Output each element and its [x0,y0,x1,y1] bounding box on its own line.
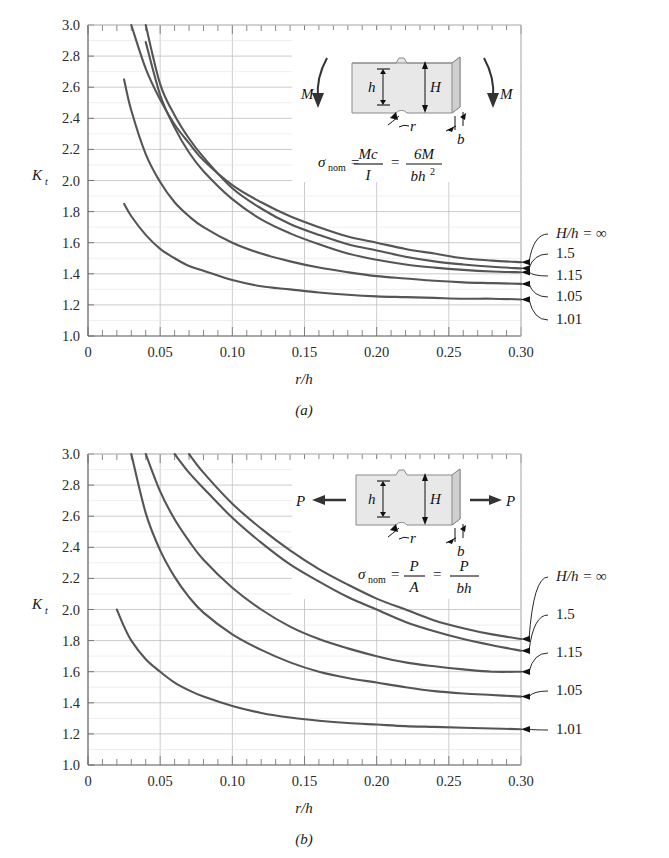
y-tick-label: 2.2 [62,141,80,157]
formula-den2-exp-a: 2 [430,166,435,177]
inset-dim-H-b: H [429,491,442,507]
y-tick-label: 3.0 [62,17,80,33]
chart-a-ytick-labels: 1.01.21.41.61.82.02.22.42.62.83.0 [62,17,81,344]
curve-1.01 [124,204,521,300]
y-tick-label: 2.6 [62,79,80,95]
y-tick-label: 1.8 [62,204,80,220]
formula-num1-a: Mc [357,146,377,162]
y-tick-label: 2.2 [62,570,80,586]
curve-label-1.15: 1.15 [556,644,582,660]
x-tick-label: 0.20 [364,344,389,360]
curve-label-leader [529,691,548,697]
curve-label-1.05: 1.05 [556,682,582,698]
panel-a: 1.01.21.41.61.82.02.22.42.62.83.0 00.050… [0,0,669,429]
x-tick-label: 0.10 [220,344,245,360]
chart-a-xtick-labels: 00.050.100.150.200.250.30 [84,344,533,360]
y-tick-label: 2.8 [62,48,80,64]
x-axis-title-b: r/h [295,800,313,816]
curve-label-group-a: H/h = ∞1.51.151.051.01 [521,225,607,327]
curve-label-leader [529,272,548,276]
y-tick-label: 1.6 [62,235,80,251]
curve-label-1.01: 1.01 [556,721,582,737]
x-tick-label: 0.30 [508,344,533,360]
y-tick-label: 2.8 [62,477,80,493]
panel-caption-b: (b) [295,831,313,848]
x-tick-label: 0.05 [147,773,172,789]
inset-dim-h-a: h [368,79,376,95]
y-tick-label: 1.0 [62,328,80,344]
x-tick-label: 0 [84,773,91,789]
curve-label-1.5: 1.5 [556,245,575,261]
curve-label-arrow [521,636,530,642]
inset-dim-H-a: H [429,79,442,95]
curve-label-group-b: H/h = ∞1.51.151.051.01 [521,568,607,737]
formula-eq2-b: = [432,566,442,582]
curve-label-arrow [521,281,530,287]
formula-eq1-b: = [390,566,400,582]
formula-den1-b: A [408,579,419,595]
y-tick-label: 1.8 [62,633,80,649]
inset-dim-r-b: r [410,530,416,546]
y-tick-label: 3.0 [62,446,80,462]
inset-load-right-a: M [499,86,514,102]
chart-a-svg: 1.01.21.41.61.82.02.22.42.62.83.0 00.050… [0,0,669,429]
sigma-sub-b: nom [368,574,386,585]
inset-load-right-b: P [505,493,515,509]
inset-load-left-a: M [300,86,315,102]
formula-num1-b: P [408,558,418,574]
formula-den2-b: bh [457,580,472,596]
y-tick-label: 1.4 [62,695,81,711]
inset-dim-b-a: b [457,131,465,147]
sigma-symbol-b: σ [358,566,366,582]
curve-label-arrow [521,296,530,302]
y-tick-label: 2.0 [62,173,80,189]
chart-b-xtick-labels: 00.050.100.150.200.250.30 [84,773,533,789]
y-tick-label: 2.4 [62,110,81,126]
inset-dim-r-a: r [410,118,416,134]
x-tick-label: 0.25 [436,773,461,789]
y-tick-label: 2.0 [62,602,80,618]
curve-label-arrow [521,648,530,654]
curve-label-arrow [521,269,530,275]
curve-label-arrow [521,726,530,732]
chart-b-ytick-labels: 1.01.21.41.61.82.02.22.42.62.83.0 [62,446,81,773]
x-tick-label: 0.10 [220,773,245,789]
curve-label-leader [529,653,548,672]
curve-label-1.5: 1.5 [556,606,575,622]
curve-label-arrow [521,693,530,699]
figure-root: 1.01.21.41.61.82.02.22.42.62.83.0 00.050… [0,0,669,858]
chart-b-svg: 1.01.21.41.61.82.02.22.42.62.83.0 00.050… [0,429,669,858]
y-tick-label: 2.6 [62,508,80,524]
x-axis-title-a: r/h [295,371,313,387]
panel-caption-a: (a) [295,402,313,419]
curve-label-leader [529,234,548,262]
chart-a-ylabel: K t [31,167,48,187]
x-tick-label: 0.25 [436,344,461,360]
x-tick-label: 0 [84,344,91,360]
y-tick-label: 1.6 [62,664,80,680]
inset-dim-b-b: b [457,543,465,559]
sigma-symbol-a: σ [318,154,326,170]
formula-num2-a: 6M [414,146,436,162]
x-tick-label: 0.15 [292,773,317,789]
curve-label-arrow [521,669,530,675]
y-axis-title-sub-b: t [45,605,48,616]
y-axis-title-b: K [31,596,43,612]
curve-label-leader [529,284,548,297]
y-tick-label: 1.2 [62,726,80,742]
y-tick-label: 1.0 [62,757,80,773]
curve-label-inf: H/h = ∞ [555,568,607,584]
x-tick-label: 0.15 [292,344,317,360]
curve-label-leader [529,254,548,268]
curve-label-leader [529,615,548,651]
curve-label-leader [529,577,548,639]
panel-b: 1.01.21.41.61.82.02.22.42.62.83.0 00.050… [0,429,669,858]
curve-label-arrow [521,259,530,265]
x-tick-label: 0.05 [147,344,172,360]
curve-label-leader [529,299,548,320]
sigma-sub-a: nom [328,162,346,173]
y-tick-label: 2.4 [62,539,81,555]
inset-load-left-b: P [295,493,305,509]
curve-label-inf: H/h = ∞ [555,225,607,241]
y-tick-label: 1.2 [62,297,80,313]
